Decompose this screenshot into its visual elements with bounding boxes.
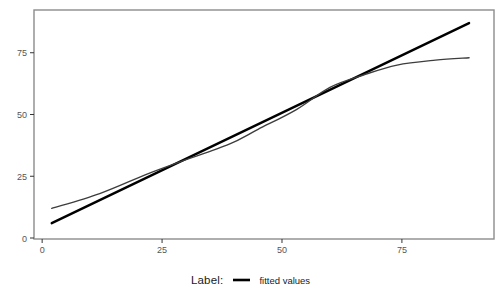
legend-item-label: fitted values (259, 275, 310, 286)
plot-area: 02550750255075 (0, 0, 501, 296)
legend-line-swatch (232, 277, 251, 283)
x-tick-label: 50 (277, 245, 287, 255)
line-chart-figure: 02550750255075 Label: fitted values (0, 0, 501, 296)
y-tick-label: 75 (17, 48, 27, 58)
y-tick-label: 50 (17, 110, 27, 120)
x-tick-label: 75 (397, 245, 407, 255)
legend-title: Label: (191, 274, 224, 286)
legend-item-fitted-values: fitted values (232, 275, 310, 286)
x-tick-label: 0 (40, 245, 45, 255)
y-tick-label: 0 (22, 234, 27, 244)
legend: Label: fitted values (0, 269, 501, 291)
y-tick-label: 25 (17, 172, 27, 182)
x-tick-label: 25 (157, 245, 167, 255)
